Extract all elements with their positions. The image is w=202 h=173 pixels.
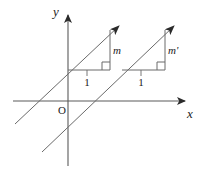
line-m-prime-run-label: 1 <box>138 76 144 88</box>
line-m-prime-slope-label: m' <box>168 44 179 56</box>
x-axis-label: x <box>186 106 193 121</box>
origin-label: O <box>58 104 66 116</box>
figure-background <box>0 0 202 173</box>
figure-canvas: y x O m m' 1 1 <box>0 0 202 173</box>
geometry-figure: y x O m m' 1 1 <box>0 0 202 173</box>
line-m-slope-label: m <box>113 44 121 56</box>
line-m-run-label: 1 <box>84 76 90 88</box>
y-axis-label: y <box>51 4 59 19</box>
